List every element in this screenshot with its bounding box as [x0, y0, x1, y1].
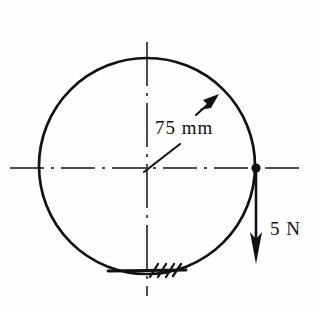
dimension-label: 75 mm	[155, 118, 213, 137]
diagram-canvas	[0, 0, 319, 314]
dimension-arrowhead-icon	[199, 94, 219, 110]
force-label: 5 N	[270, 219, 301, 238]
ring-diagram-figure: 75 mm 5 N	[0, 0, 319, 314]
support-base-line	[108, 270, 186, 271]
